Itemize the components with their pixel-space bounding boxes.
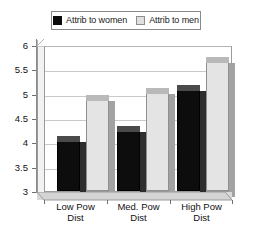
bar-top bbox=[57, 136, 80, 142]
bar-face bbox=[206, 57, 229, 191]
bar-men-high-pow-dist bbox=[206, 57, 229, 191]
y-tick-mark-3-5 bbox=[32, 168, 36, 169]
bar-women-high-pow-dist bbox=[177, 85, 200, 191]
bar-side bbox=[169, 94, 175, 197]
y-tick-label-4-5: 4.5 bbox=[2, 114, 28, 124]
x-category-line-1: Med. Pow bbox=[107, 201, 170, 212]
y-tick-label-3: 3 bbox=[2, 187, 28, 197]
bar-top bbox=[117, 126, 140, 132]
legend-label-men: Attrib to men bbox=[149, 16, 199, 25]
x-category-line-1: Low Pow bbox=[44, 201, 107, 212]
bar-top bbox=[177, 85, 200, 91]
bar-face bbox=[86, 95, 109, 191]
bar-men-low-pow-dist bbox=[86, 95, 109, 191]
y-tick-label-6: 6 bbox=[2, 41, 28, 51]
x-category-label-low-pow-dist: Low Pow Dist bbox=[44, 201, 107, 223]
x-category-line-2: Dist bbox=[170, 212, 233, 223]
y-tick-label-5-5: 5.5 bbox=[2, 65, 28, 75]
x-category-label-med-pow-dist: Med. Pow Dist bbox=[107, 201, 170, 223]
y-tick-mark-5 bbox=[32, 95, 36, 96]
y-tick-label-5: 5 bbox=[2, 90, 28, 100]
bar-face bbox=[57, 136, 80, 191]
bar-men-med-pow-dist bbox=[146, 88, 169, 191]
bar-side bbox=[109, 101, 115, 197]
legend-entry-women: Attrib to women bbox=[53, 16, 127, 25]
y-tick-mark-5-5 bbox=[32, 70, 36, 71]
y-tick-mark-4-5 bbox=[32, 119, 36, 120]
x-category-line-1: High Pow bbox=[170, 201, 233, 212]
x-category-line-2: Dist bbox=[107, 212, 170, 223]
chart-legend: Attrib to women Attrib to men bbox=[51, 11, 201, 30]
bar-top bbox=[206, 57, 229, 63]
bar-top bbox=[146, 88, 169, 94]
plot-left-wall bbox=[37, 46, 44, 192]
y-tick-mark-6 bbox=[32, 46, 36, 47]
y-tick-mark-3 bbox=[32, 192, 36, 193]
bar-face bbox=[146, 88, 169, 191]
x-category-label-high-pow-dist: High Pow Dist bbox=[170, 201, 233, 223]
y-tick-label-4: 4 bbox=[2, 138, 28, 148]
legend-label-women: Attrib to women bbox=[66, 16, 127, 25]
legend-swatch-women-icon bbox=[53, 16, 62, 25]
plot-area bbox=[44, 46, 232, 192]
plot-floor bbox=[37, 192, 232, 200]
gridline-5-5 bbox=[45, 71, 231, 72]
chart-container: Attrib to women Attrib to men bbox=[0, 0, 253, 235]
x-category-line-2: Dist bbox=[44, 212, 107, 223]
bar-face bbox=[117, 126, 140, 191]
legend-swatch-men-icon bbox=[136, 16, 145, 25]
y-tick-label-3-5: 3.5 bbox=[2, 163, 28, 173]
bar-women-med-pow-dist bbox=[117, 126, 140, 191]
bar-side bbox=[229, 63, 235, 197]
legend-entry-men: Attrib to men bbox=[136, 16, 199, 25]
bar-women-low-pow-dist bbox=[57, 136, 80, 191]
bar-face bbox=[177, 85, 200, 191]
y-tick-mark-4 bbox=[32, 143, 36, 144]
bar-top bbox=[86, 95, 109, 101]
